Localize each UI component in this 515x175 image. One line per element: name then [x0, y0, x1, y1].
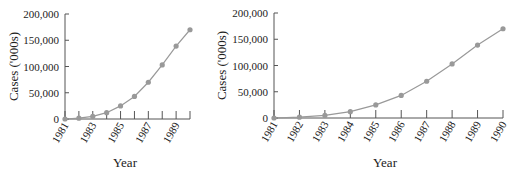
- y-axis-title: Cases ('000s): [6, 32, 21, 101]
- data-point: [475, 42, 480, 47]
- data-point: [146, 80, 151, 85]
- data-point: [174, 43, 179, 48]
- data-line: [65, 30, 190, 119]
- charts-canvas: 050,000100,000150,000200,000198119831985…: [0, 0, 515, 175]
- x-tick-label: 1987: [411, 119, 433, 144]
- data-point: [348, 109, 353, 114]
- x-tick-label: 1983: [77, 120, 99, 145]
- data-point: [118, 103, 123, 108]
- data-point: [424, 79, 429, 84]
- data-point: [90, 114, 95, 119]
- data-point: [132, 94, 137, 99]
- data-point: [399, 93, 404, 98]
- x-axis-title: Year: [113, 155, 138, 170]
- x-tick-label: 1989: [462, 119, 484, 144]
- y-axis-title: Cases ('000s): [214, 31, 229, 100]
- data-point: [450, 61, 455, 66]
- y-tick-label: 200,000: [232, 7, 268, 19]
- x-axis-title: Year: [373, 155, 398, 170]
- y-tick-label: 100,000: [232, 60, 268, 72]
- x-tick-label: 1986: [386, 119, 408, 144]
- chart-1: 050,000100,000150,000200,000198119831985…: [6, 8, 193, 170]
- x-tick-label: 1985: [360, 119, 382, 144]
- x-tick-label: 1988: [436, 119, 458, 144]
- y-tick-label: 150,000: [23, 34, 59, 46]
- y-tick-label: 50,000: [29, 87, 60, 99]
- data-point: [104, 110, 109, 115]
- x-tick-label: 1984: [335, 119, 357, 144]
- y-tick-label: 100,000: [23, 61, 59, 73]
- data-point: [187, 27, 192, 32]
- x-tick-label: 1983: [309, 119, 331, 144]
- y-tick-label: 150,000: [232, 33, 268, 45]
- data-point: [160, 62, 165, 67]
- x-tick-label: 1989: [160, 120, 182, 145]
- data-line: [274, 29, 503, 118]
- x-tick-label: 1985: [105, 120, 127, 145]
- data-point: [500, 26, 505, 31]
- data-point: [76, 116, 81, 121]
- y-tick-label: 50,000: [238, 86, 269, 98]
- data-point: [373, 102, 378, 107]
- data-point: [322, 113, 327, 118]
- chart-2: 050,000100,000150,000200,000198119821983…: [214, 7, 509, 170]
- data-point: [297, 115, 302, 120]
- data-point: [271, 115, 276, 120]
- y-tick-label: 200,000: [23, 8, 59, 20]
- data-point: [62, 116, 67, 121]
- x-tick-label: 1990: [487, 119, 509, 144]
- x-tick-label: 1982: [284, 119, 305, 144]
- x-tick-label: 1987: [133, 120, 155, 145]
